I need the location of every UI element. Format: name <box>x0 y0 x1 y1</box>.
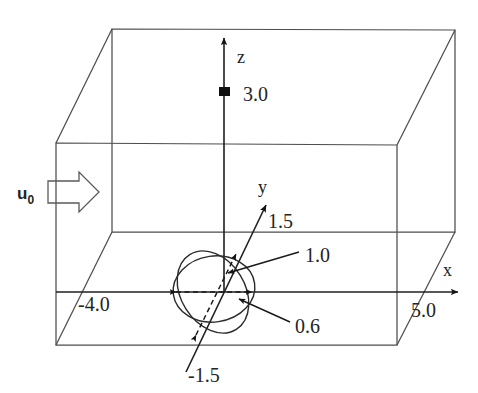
leader-line-radius-b <box>239 299 290 322</box>
inlet-velocity-subscript: 0 <box>27 193 34 207</box>
box-edge-top-left <box>56 29 112 143</box>
z-axis-label: z <box>237 47 245 67</box>
domain-schematic-svg: z 3.0 y 1.5 -1.5 x 5.0 -4.0 1.0 0.6 u0 <box>0 0 478 393</box>
y-axis-line <box>186 205 266 372</box>
semi-axis-y-dashed <box>196 254 236 335</box>
box-edge-top-right <box>397 30 455 145</box>
x-positive-label: 5.0 <box>411 299 436 321</box>
inlet-velocity-symbol: u <box>17 184 27 203</box>
figure-labels: z 3.0 y 1.5 -1.5 x 5.0 -4.0 1.0 0.6 u0 <box>17 47 452 386</box>
z-axis-tick-3 <box>219 87 230 96</box>
z-value-label: 3.0 <box>243 83 268 105</box>
y-negative-label: -1.5 <box>188 364 220 386</box>
inlet-velocity-label: u0 <box>17 184 34 207</box>
x-negative-label: -4.0 <box>78 293 110 315</box>
radius-a-label: 1.0 <box>305 244 330 266</box>
x-axis-label: x <box>443 260 452 280</box>
box-edge-bottom-right <box>397 232 455 345</box>
y-axis-label: y <box>258 177 267 197</box>
box-back-face <box>112 29 455 232</box>
figure-canvas: z 3.0 y 1.5 -1.5 x 5.0 -4.0 1.0 0.6 u0 <box>0 0 478 393</box>
radius-b-label: 0.6 <box>295 315 320 337</box>
box-edge-bottom-left <box>56 232 112 345</box>
domain-box <box>56 29 455 345</box>
y-positive-label: 1.5 <box>268 210 293 232</box>
